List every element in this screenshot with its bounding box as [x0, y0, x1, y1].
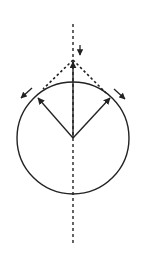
circle-vector-diagram: [0, 0, 142, 267]
right-tangent-arrow-icon: [114, 89, 125, 99]
right-tangent-line: [73, 60, 106, 93]
left-radius-vector: [38, 98, 73, 138]
left-tangent-arrow-icon: [21, 88, 32, 98]
right-radius-vector: [73, 98, 110, 138]
